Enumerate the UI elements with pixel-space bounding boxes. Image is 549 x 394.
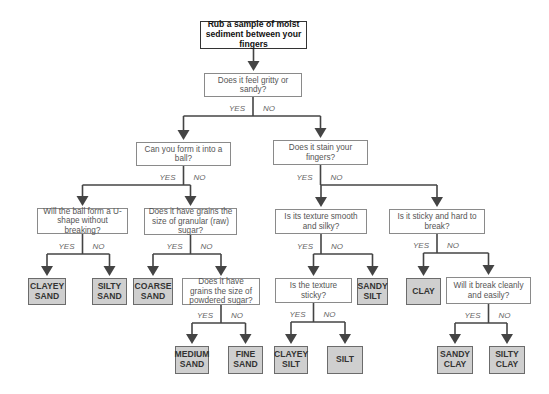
arrow-down-icon xyxy=(501,334,513,344)
flowchart-canvas: Rub a sample of moist sediment between y… xyxy=(0,0,549,394)
branch-label-no: NO xyxy=(263,104,275,113)
branch-label-yes: YES xyxy=(159,173,175,182)
question-ball: Can you form it into a ball? xyxy=(136,142,231,166)
result-text: COARSE SAND xyxy=(135,282,172,302)
arrow-down-icon xyxy=(178,130,190,140)
arrow-down-icon xyxy=(431,197,443,207)
arrow-down-icon xyxy=(308,266,320,276)
result-clayey-sand: CLAYEY SAND xyxy=(28,278,66,305)
result-text: SANDY SILT xyxy=(358,282,388,302)
result-text: SANDY CLAY xyxy=(440,350,470,370)
result-text: SILTY SAND xyxy=(95,282,124,302)
branch-label-no: NO xyxy=(499,311,511,320)
result-text: CLAYEY SAND xyxy=(30,282,64,302)
result-silt: SILT xyxy=(327,346,363,374)
result-silty-sand: SILTY SAND xyxy=(92,278,127,305)
question-sticky-hard: Is it sticky and hard to break? xyxy=(389,209,485,234)
branch-label-yes: YES xyxy=(297,242,313,251)
branch-label-yes: YES xyxy=(58,242,74,251)
arrow-down-icon xyxy=(240,334,252,344)
arrow-down-icon xyxy=(147,266,159,276)
question-text: Is the texture sticky? xyxy=(279,281,348,300)
question-text: Is it sticky and hard to break? xyxy=(393,212,481,231)
arrow-down-icon xyxy=(185,196,197,206)
question-break-clean: Will it break cleanly and easily? xyxy=(446,277,531,304)
question-text: Does it have grains the size of granular… xyxy=(148,207,233,235)
branch-label-no: NO xyxy=(331,242,343,251)
question-gritty: Does it feel gritty or sandy? xyxy=(204,73,302,97)
branch-label-yes: YES xyxy=(229,104,245,113)
branch-label-yes: YES xyxy=(413,241,429,250)
branch-label-yes: YES xyxy=(464,311,480,320)
branch-label-no: NO xyxy=(93,242,105,251)
question-powdered: Does it have grains the size of powdered… xyxy=(182,278,260,305)
branch-label-yes: YES xyxy=(166,242,182,251)
branch-label-no: NO xyxy=(201,242,213,251)
root-node: Rub a sample of moist sediment between y… xyxy=(200,21,307,49)
result-text: SILT xyxy=(336,355,354,365)
question-text: Will the ball form a U-shape without bre… xyxy=(41,207,124,235)
result-fine-sand: FINE SAND xyxy=(228,346,263,374)
arrow-down-icon xyxy=(418,266,430,276)
result-text: MEDIUM SAND xyxy=(175,350,210,370)
question-raw-sugar: Does it have grains the size of granular… xyxy=(144,208,237,235)
branch-label-yes: YES xyxy=(197,311,213,320)
arrow-down-icon xyxy=(483,265,495,275)
result-text: SILTY CLAY xyxy=(492,350,522,370)
arrow-down-icon xyxy=(367,266,379,276)
root-text: Rub a sample of moist sediment between y… xyxy=(204,20,303,50)
arrow-down-icon xyxy=(285,334,297,344)
arrow-down-icon xyxy=(41,266,53,276)
result-text: CLAYEY SILT xyxy=(274,350,308,370)
arrow-down-icon xyxy=(449,334,461,344)
arrow-down-icon xyxy=(248,61,260,71)
result-silty-clay: SILTY CLAY xyxy=(489,346,525,374)
result-sandy-clay: SANDY CLAY xyxy=(437,346,473,374)
question-text: Does it feel gritty or sandy? xyxy=(208,76,298,95)
connector-layer xyxy=(0,0,549,394)
arrow-down-icon xyxy=(215,266,227,276)
result-text: FINE SAND xyxy=(231,350,260,370)
question-text: Is its texture smooth and silky? xyxy=(279,212,363,231)
arrow-down-icon xyxy=(186,334,198,344)
branch-label-no: NO xyxy=(324,310,336,319)
question-smooth: Is its texture smooth and silky? xyxy=(275,209,367,234)
branch-label-no: NO xyxy=(194,173,206,182)
result-clay: CLAY xyxy=(406,278,441,305)
arrow-down-icon xyxy=(315,197,327,207)
branch-label-no: NO xyxy=(331,173,343,182)
branch-label-yes: YES xyxy=(296,173,312,182)
question-text: Will it break cleanly and easily? xyxy=(450,281,527,300)
result-medium-sand: MEDIUM SAND xyxy=(175,346,209,374)
question-text: Can you form it into a ball? xyxy=(140,145,227,164)
arrow-down-icon xyxy=(104,266,116,276)
branch-label-yes: YES xyxy=(289,310,305,319)
arrow-down-icon xyxy=(339,334,351,344)
result-sandy-silt: SANDY SILT xyxy=(357,278,388,305)
result-coarse-sand: COARSE SAND xyxy=(133,278,173,305)
branch-label-no: NO xyxy=(231,311,243,320)
question-stain: Does it stain your fingers? xyxy=(273,140,368,165)
question-ushape: Will the ball form a U-shape without bre… xyxy=(37,208,128,234)
result-clayey-silt: CLAYEY SILT xyxy=(274,346,308,374)
question-texture-sticky: Is the texture sticky? xyxy=(275,278,352,303)
result-text: CLAY xyxy=(412,287,435,297)
arrow-down-icon xyxy=(315,128,327,138)
arrow-down-icon xyxy=(77,196,89,206)
question-text: Does it stain your fingers? xyxy=(277,143,364,162)
branch-label-no: NO xyxy=(447,241,459,250)
question-text: Does it have grains the size of powdered… xyxy=(186,277,256,305)
